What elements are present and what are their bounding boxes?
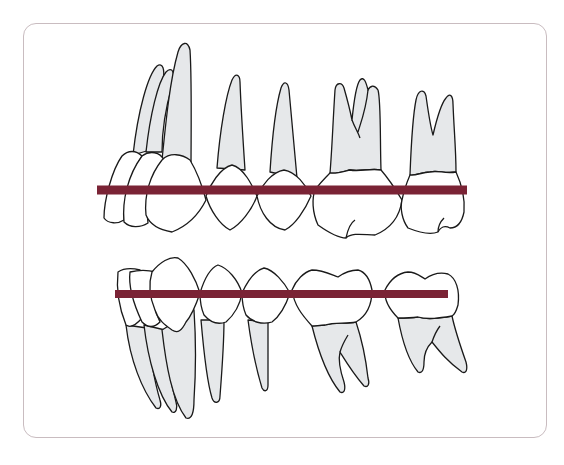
- upper-second-molar-root: [410, 91, 456, 175]
- lower-second-molar-root: [398, 316, 467, 373]
- lower-first-premolar-root: [201, 320, 224, 402]
- upper-first-molar-root: [330, 79, 381, 174]
- lower-first-molar-root: [312, 322, 369, 393]
- upper-first-premolar-root: [217, 75, 245, 170]
- upper-second-premolar-crown: [257, 170, 311, 230]
- upper-first-molar-crown: [313, 169, 402, 238]
- upper-occlusal-line: [97, 186, 467, 195]
- lower-second-premolar-root: [248, 320, 268, 391]
- upper-first-premolar-crown: [206, 165, 257, 230]
- lower-arch: [115, 258, 467, 419]
- upper-second-premolar-root: [270, 83, 297, 178]
- lower-occlusal-line: [115, 290, 448, 298]
- upper-second-molar-crown: [401, 171, 464, 233]
- teeth-diagram: [0, 0, 564, 465]
- upper-arch: [97, 43, 467, 238]
